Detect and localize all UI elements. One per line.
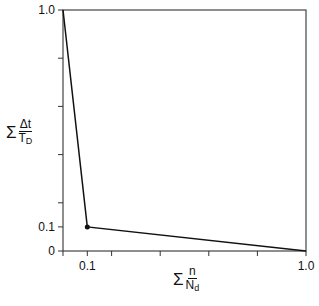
chart-plot: 0.11.000.11.0 [0, 0, 319, 306]
data-point-marker [85, 224, 90, 229]
y-axis-sigma: Σ [6, 123, 17, 143]
y-axis-numerator: Δt [19, 118, 32, 132]
y-tick-label: 1.0 [38, 3, 55, 17]
y-tick-label: 0.1 [38, 220, 55, 234]
y-axis-label: Σ Δt TD [6, 118, 32, 148]
series-line [63, 10, 306, 251]
x-tick-label: 0.1 [79, 259, 96, 273]
x-axis-numerator: n [188, 265, 197, 279]
x-axis-fraction: n Nd [186, 265, 200, 295]
x-axis-denominator: Nd [186, 279, 200, 295]
x-tick-label: 1.0 [298, 259, 315, 273]
plot-frame [63, 10, 306, 251]
x-axis-sigma: Σ [173, 270, 184, 290]
x-axis-label: Σ n Nd [173, 265, 199, 295]
y-axis-fraction: Δt TD [19, 118, 33, 148]
y-tick-label: 0 [48, 244, 55, 258]
y-axis-denominator: TD [19, 132, 33, 148]
